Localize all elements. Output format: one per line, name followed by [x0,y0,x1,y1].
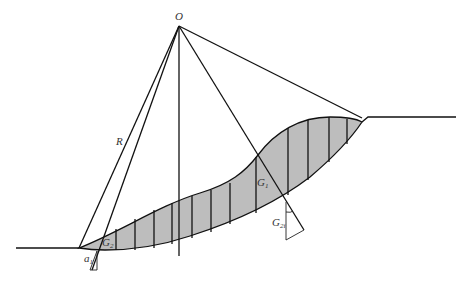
center-label: O [175,10,183,22]
slope-stability-diagram: O R G1 G2 G2i a1 [0,0,468,287]
g2i-label: G2i [272,216,285,230]
crest-ground-line [362,117,456,122]
angle-triangle-g2i [286,202,304,240]
a1-label: a1 [84,252,93,266]
radius-label: R [115,135,123,147]
